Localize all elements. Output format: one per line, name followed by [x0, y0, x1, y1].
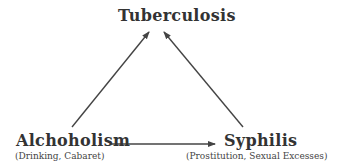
arrow-alcoholism-to-tuberculosis: [72, 32, 149, 127]
node-alcoholism-label: Alchoholism: [16, 131, 130, 150]
causal-triangle-diagram: Tuberculosis Alchoholism (Drinking, Caba…: [0, 0, 344, 166]
node-syphilis-label: Syphilis: [224, 131, 297, 150]
arrow-syphilis-to-tuberculosis: [164, 32, 243, 127]
node-tuberculosis-label: Tuberculosis: [118, 6, 236, 25]
node-alcoholism-sublabel: (Drinking, Cabaret): [15, 151, 104, 161]
node-syphilis-sublabel: (Prostitution, Sexual Excesses): [186, 151, 327, 161]
